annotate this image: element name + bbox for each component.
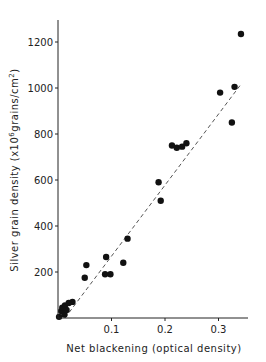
x-tick-label: 0.3: [211, 324, 227, 335]
data-point: [120, 260, 126, 266]
y-tick-label: 800: [34, 129, 53, 140]
x-tick-label: 0.1: [104, 324, 120, 335]
y-tick-label: 400: [34, 221, 53, 232]
data-point: [155, 179, 161, 185]
y-axis-title: Silver grain density (x106grains/cm2): [8, 68, 20, 271]
y-tick-label: 1200: [28, 37, 53, 48]
x-axis-ticks: 0.10.20.3: [104, 318, 227, 335]
data-point: [217, 89, 223, 95]
scatter-chart: 20040060080010001200 0.10.20.3 Net black…: [0, 0, 266, 362]
data-point: [229, 119, 235, 125]
y-tick-label: 600: [34, 175, 53, 186]
data-point: [158, 198, 164, 204]
data-point: [174, 145, 180, 151]
y-axis-title-mid: grains/cm: [9, 78, 20, 132]
fit-line-path: [65, 86, 240, 318]
data-point: [82, 275, 88, 281]
data-point: [69, 299, 75, 305]
data-point: [238, 31, 244, 37]
data-point: [231, 84, 237, 90]
data-point: [183, 140, 189, 146]
y-axis-ticks: 20040060080010001200: [28, 37, 58, 278]
data-points: [56, 31, 244, 320]
y-tick-label: 1000: [28, 83, 53, 94]
data-point: [107, 271, 113, 277]
y-tick-label: 200: [34, 267, 53, 278]
x-axis-title: Net blackening (optical density): [66, 343, 241, 354]
x-tick-label: 0.2: [157, 324, 173, 335]
y-axis-title-end: ): [9, 68, 20, 72]
data-point: [103, 254, 109, 260]
data-point: [63, 307, 69, 313]
fit-line: [65, 86, 240, 318]
data-point: [83, 262, 89, 268]
data-point: [124, 235, 130, 241]
y-axis-title-main: Silver grain density (x10: [9, 137, 20, 272]
